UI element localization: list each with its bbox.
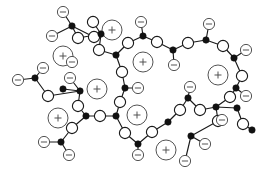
segment-node <box>119 127 130 138</box>
ionomer-network-figure <box>0 0 272 178</box>
segment-node <box>66 122 77 133</box>
segment-node <box>93 44 104 55</box>
junction-node <box>77 88 83 94</box>
segment-node <box>236 70 247 81</box>
segment-node <box>94 110 105 121</box>
segment-node <box>122 37 133 48</box>
junction-node <box>60 86 66 92</box>
segment-node <box>72 32 83 43</box>
segment-node <box>114 96 125 107</box>
junction-node <box>58 139 64 145</box>
junction-node <box>122 85 128 91</box>
junction-node <box>234 105 240 111</box>
junction-node <box>165 119 171 125</box>
junction-node <box>213 104 219 110</box>
segment-node <box>182 37 193 48</box>
junction-node <box>233 85 239 91</box>
junction-node <box>231 55 237 61</box>
junction-node <box>32 75 38 81</box>
junction-node <box>249 127 255 133</box>
junction-node <box>140 33 146 39</box>
junction-node <box>83 113 89 119</box>
segment-node <box>224 91 235 102</box>
junction-node <box>69 23 75 29</box>
junction-node <box>113 113 119 119</box>
junction-node <box>170 47 176 53</box>
junction-node <box>203 37 209 43</box>
segment-node <box>87 16 98 27</box>
segment-node <box>217 40 228 51</box>
junction-node <box>98 31 104 37</box>
segment-node <box>174 104 185 115</box>
junction-node <box>188 133 194 139</box>
segment-node <box>146 126 157 137</box>
segment-node <box>237 118 248 129</box>
junction-node <box>185 95 191 101</box>
segment-node <box>151 36 162 47</box>
segment-node <box>42 90 53 101</box>
network-diagram-canvas <box>0 0 272 178</box>
segment-node <box>116 66 127 77</box>
junction-node <box>135 141 141 147</box>
anion-layer <box>12 6 251 166</box>
junction-node <box>113 52 119 58</box>
segment-node <box>72 100 83 111</box>
segment-node <box>194 104 205 115</box>
